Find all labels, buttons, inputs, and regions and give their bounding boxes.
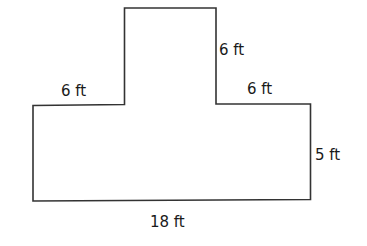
label-left-shelf-width: 6 ft bbox=[61, 82, 86, 100]
label-top-box-height: 6 ft bbox=[219, 41, 244, 59]
label-right-side-height: 5 ft bbox=[315, 146, 340, 164]
label-bottom-width: 18 ft bbox=[150, 213, 185, 231]
composite-shape-diagram: 6 ft 6 ft 6 ft 5 ft 18 ft bbox=[0, 0, 367, 246]
shape-outline bbox=[33, 8, 311, 201]
label-right-shelf-width: 6 ft bbox=[247, 80, 272, 98]
